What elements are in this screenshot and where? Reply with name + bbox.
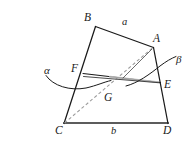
- label-point-f: F: [71, 63, 78, 75]
- label-arc-beta: β: [176, 54, 181, 65]
- edge-ba: [96, 27, 154, 48]
- label-point-e: E: [164, 79, 171, 91]
- geometry-figure: B A a β F α E G C b D: [0, 0, 195, 153]
- label-side-a: a: [122, 17, 127, 28]
- label-vertex-d: D: [163, 125, 171, 137]
- label-arc-alpha: α: [44, 65, 50, 76]
- label-vertex-b: B: [84, 12, 91, 24]
- edge-cb: [64, 27, 96, 124]
- segment-a-to-fe: [123, 49, 152, 78]
- label-side-b: b: [111, 126, 116, 137]
- diagonal-ca-dashed: [65, 48, 154, 124]
- label-vertex-a: A: [153, 33, 160, 45]
- label-point-g: G: [104, 92, 112, 104]
- label-vertex-c: C: [55, 125, 63, 137]
